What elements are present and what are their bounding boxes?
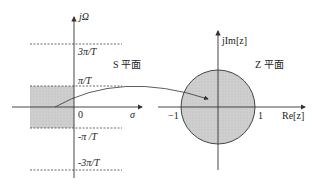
s-to-z-mapping-diagram: jΩ S 平面 3π/T π/T 0 σ -π /T -3π/T jIm[z] … [0, 0, 315, 189]
z-horizontal-axis-label: Re[z] [282, 110, 304, 121]
tick-neg-3pi: -3π/T [78, 157, 101, 168]
tick-neg-pi: -π /T [78, 131, 99, 142]
origin-label: 0 [78, 109, 83, 120]
tick-pi: π/T [78, 75, 93, 86]
s-plane: jΩ S 平面 3π/T π/T 0 σ -π /T -3π/T [12, 11, 142, 178]
tick-pos-one: 1 [258, 110, 263, 121]
s-plane-title: S 平面 [113, 59, 141, 70]
s-vertical-axis-label: jΩ [77, 11, 89, 22]
tick-3pi: 3π/T [77, 46, 98, 57]
z-vertical-axis-label: jIm[z] [221, 35, 247, 46]
z-plane: jIm[z] Z 平面 −1 1 Re[z] [158, 31, 305, 170]
z-plane-title: Z 平面 [255, 59, 284, 70]
tick-neg-one: −1 [168, 110, 179, 121]
s-horizontal-axis-label: σ [130, 109, 136, 120]
